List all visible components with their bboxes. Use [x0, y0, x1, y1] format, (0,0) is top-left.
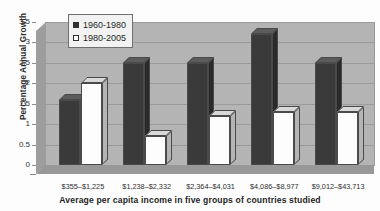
bar-1960-1980-group-1: [59, 100, 80, 165]
bar-front-face: [315, 63, 336, 165]
chart-figure: Percentage Annual Growth 00.511.522.533.…: [0, 0, 380, 211]
bar-1980-2005-group-1: [81, 83, 102, 165]
x-axis-tick-label: $355–$1,225: [62, 182, 105, 191]
bar-1980-2005-group-3: [209, 116, 230, 165]
y-axis-baseline: [30, 174, 36, 175]
bar-front-face: [145, 136, 166, 165]
bar-side-face: [294, 106, 300, 165]
bar-front-face: [81, 83, 102, 165]
legend-swatch-icon-filled: [73, 22, 79, 28]
y-axis-tick-label: 0.5: [4, 141, 30, 149]
bar-side-face: [102, 78, 108, 165]
x-axis-tick-label: $2,364–$4,031: [186, 182, 235, 191]
x-axis-tick-label: $1,238–$2,332: [122, 182, 171, 191]
plot-floor: [36, 165, 374, 174]
bar-side-face: [358, 106, 364, 165]
x-axis-title: Average per capita income in five groups…: [0, 195, 380, 205]
y-axis-tick-label: 1: [4, 120, 30, 128]
bar-front-face: [209, 116, 230, 165]
legend-item-1960-1980: 1960-1980: [73, 18, 126, 31]
bar-front-face: [59, 100, 80, 165]
y-axis-tick-label: 3: [4, 38, 30, 46]
bar-1960-1980-group-5: [315, 63, 336, 165]
x-axis-tick-label: $9,012–$43,713: [312, 182, 365, 191]
bar-1960-1980-group-3: [187, 63, 208, 165]
bar-front-face: [123, 63, 144, 165]
x-axis-tick-label: $4,086–$8,977: [250, 182, 299, 191]
legend-swatch-icon-open: [73, 35, 79, 41]
legend-item-1980-2005: 1980-2005: [73, 31, 126, 44]
bar-front-face: [187, 63, 208, 165]
chart-legend: 1960-1980 1980-2005: [68, 14, 133, 48]
legend-label: 1980-2005: [83, 33, 126, 43]
bar-front-face: [251, 34, 272, 165]
bar-1980-2005-group-4: [273, 112, 294, 165]
bar-1960-1980-group-2: [123, 63, 144, 165]
bar-1980-2005-group-5: [337, 112, 358, 165]
bar-1980-2005-group-2: [145, 136, 166, 165]
y-axis-tick-label: 0: [4, 161, 30, 169]
bar-1960-1980-group-4: [251, 34, 272, 165]
x-axis-tick-group: $355–$1,225$1,238–$2,332$2,364–$4,031$4,…: [36, 182, 374, 194]
y-axis-tick-group: 00.511.522.533.5: [2, 0, 30, 211]
y-axis-tick-label: 2: [4, 79, 30, 87]
bar-front-face: [273, 112, 294, 165]
bar-front-face: [337, 112, 358, 165]
y-axis-tick-label: 3.5: [4, 18, 30, 26]
bar-side-face: [230, 110, 236, 165]
y-axis-tick-label: 2.5: [4, 59, 30, 67]
legend-label: 1960-1980: [83, 20, 126, 30]
plot-side-wall: [36, 22, 46, 174]
y-axis-tick-label: 1.5: [4, 100, 30, 108]
